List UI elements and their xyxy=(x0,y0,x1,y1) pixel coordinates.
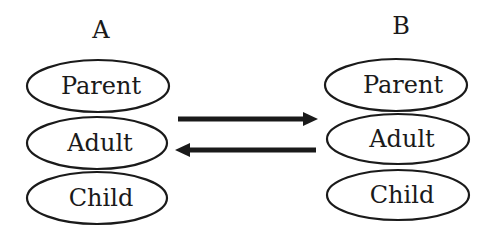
transaction-diagram: A Parent Adult Child B Parent Adult Chil… xyxy=(0,0,493,239)
node-b-child-label: Child xyxy=(370,181,435,209)
node-a-adult-label: Adult xyxy=(66,129,133,157)
column-b: B Parent Adult Child xyxy=(325,12,469,220)
arrow-left-icon xyxy=(175,143,316,157)
node-a-adult: Adult xyxy=(27,117,167,169)
arrow-right-icon xyxy=(178,112,318,126)
column-a: A Parent Adult Child xyxy=(27,16,169,224)
node-a-parent-label: Parent xyxy=(61,72,142,100)
node-b-parent: Parent xyxy=(325,59,467,111)
node-a-child: Child xyxy=(27,172,167,224)
column-b-heading: B xyxy=(392,12,410,40)
node-a-child-label: Child xyxy=(69,184,134,212)
node-b-adult: Adult xyxy=(327,114,469,164)
node-b-adult-label: Adult xyxy=(368,125,435,153)
node-a-parent: Parent xyxy=(27,60,169,112)
node-b-parent-label: Parent xyxy=(363,71,444,99)
node-b-child: Child xyxy=(327,170,469,220)
column-a-heading: A xyxy=(91,16,110,44)
